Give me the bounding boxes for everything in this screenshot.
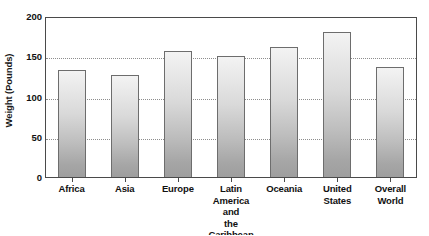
x-tick	[72, 178, 73, 182]
x-axis-label-line: Asia	[99, 183, 150, 195]
x-axis-label: LatinAmerica andthe Caribbean	[204, 183, 257, 233]
bar-slot	[152, 18, 205, 177]
x-axis-label-line: Oceania	[259, 183, 310, 195]
x-axis-label-line: America and	[205, 195, 256, 218]
x-tick	[125, 178, 126, 182]
y-tick-label: 200	[16, 12, 42, 22]
x-tick-slot	[364, 178, 417, 182]
x-axis-label: UnitedStates	[311, 183, 364, 233]
x-axis-label: Africa	[45, 183, 98, 233]
bar-slot	[363, 18, 416, 177]
plot-area	[45, 17, 417, 178]
y-axis-tick-labels: 050100150200	[14, 0, 42, 180]
x-tick-slot	[311, 178, 364, 182]
bar-slot	[46, 18, 99, 177]
bars-container	[46, 18, 416, 177]
x-axis-label-line: United	[312, 183, 363, 195]
y-axis-title-text: Weight (Pounds)	[4, 53, 15, 127]
bar[interactable]	[111, 75, 139, 177]
x-axis-label: Oceania	[258, 183, 311, 233]
bar-chart: Weight (Pounds) 050100150200 AfricaAsiaE…	[0, 0, 429, 235]
bar-slot	[257, 18, 310, 177]
x-tick	[284, 178, 285, 182]
x-axis-label-line: the Caribbean	[205, 218, 256, 236]
x-axis-label: OverallWorld	[364, 183, 417, 233]
x-axis-label-line: Africa	[46, 183, 97, 195]
x-tick-slot	[204, 178, 257, 182]
y-tick-label: 150	[16, 53, 42, 63]
bar-slot	[310, 18, 363, 177]
y-tick-label: 100	[16, 93, 42, 103]
x-tick	[337, 178, 338, 182]
bar-slot	[99, 18, 152, 177]
bar[interactable]	[270, 47, 298, 177]
bar-slot	[205, 18, 258, 177]
x-tick-slot	[258, 178, 311, 182]
x-axis-label-line: States	[312, 195, 363, 207]
x-axis-label: Asia	[98, 183, 151, 233]
x-tick-slot	[98, 178, 151, 182]
x-tick	[231, 178, 232, 182]
x-axis-labels: AfricaAsiaEuropeLatinAmerica andthe Cari…	[45, 183, 417, 233]
bar[interactable]	[164, 51, 192, 177]
y-tick-label: 0	[16, 173, 42, 183]
bar[interactable]	[217, 56, 245, 177]
bar[interactable]	[376, 67, 404, 177]
x-axis-label-line: World	[365, 195, 416, 207]
x-tick	[390, 178, 391, 182]
x-axis-label: Europe	[151, 183, 204, 233]
x-tick-slot	[45, 178, 98, 182]
x-axis-label-line: Latin	[205, 183, 256, 195]
x-tick	[178, 178, 179, 182]
x-axis-ticks	[45, 178, 417, 182]
y-tick-label: 50	[16, 133, 42, 143]
bar[interactable]	[58, 70, 86, 177]
x-tick-slot	[151, 178, 204, 182]
bar[interactable]	[323, 32, 351, 177]
x-axis-label-line: Europe	[152, 183, 203, 195]
x-axis-label-line: Overall	[365, 183, 416, 195]
